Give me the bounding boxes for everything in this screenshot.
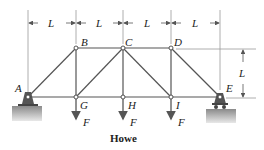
truss-members (28, 48, 220, 97)
load-label-i: F (178, 117, 185, 128)
height-label: L (239, 68, 245, 79)
joint-label-e: E (226, 83, 233, 94)
load-label-g: F (83, 117, 90, 128)
load-label-h: F (130, 117, 137, 128)
dimension-arrows (29, 23, 243, 97)
dim-label-4: L (192, 18, 198, 29)
joint-label-c: C (125, 37, 132, 48)
joint-label-a: A (15, 83, 22, 94)
extension-lines (28, 10, 256, 98)
joints (26, 46, 222, 99)
joint-label-b: B (81, 37, 88, 48)
diagram-title: Howe (110, 133, 137, 144)
joint-label-d: D (174, 37, 182, 48)
dim-label-1: L (48, 18, 54, 29)
dim-label-2: L (96, 18, 102, 29)
load-arrows (76, 99, 171, 119)
joint-label-h: H (128, 100, 136, 111)
joint-label-g: G (80, 100, 88, 111)
joint-label-i: I (176, 100, 180, 111)
dim-label-3: L (144, 18, 150, 29)
